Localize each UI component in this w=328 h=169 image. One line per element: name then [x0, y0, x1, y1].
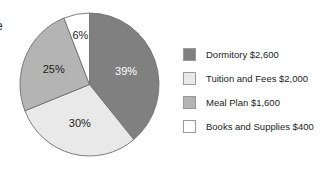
pie-slice-label: 25% — [43, 63, 65, 75]
legend-color-swatch — [183, 48, 196, 61]
legend-item-label: Meal Plan $1,600 — [206, 96, 280, 109]
pie-chart-plot-area: 39%30%25%6% — [19, 12, 160, 157]
legend-item-label: Dormitory $2,600 — [206, 48, 279, 61]
pie-slice-label: 39% — [115, 65, 137, 77]
legend-color-swatch — [183, 96, 196, 109]
legend-item-label: Books and Supplies $400 — [206, 120, 314, 133]
legend-item[interactable]: Books and Supplies $400 — [183, 114, 325, 138]
chart-legend: Dormitory $2,600Tuition and Fees $2,000M… — [183, 42, 325, 138]
pie-slice-group — [20, 13, 159, 156]
legend-item[interactable]: Meal Plan $1,600 — [183, 90, 325, 114]
pie-slice-label: 6% — [72, 29, 88, 41]
cropped-edge-text: e — [0, 19, 6, 33]
pie-chart-figure: e 39%30%25%6% Dormitory $2,600Tuition an… — [0, 0, 328, 169]
legend-item[interactable]: Tuition and Fees $2,000 — [183, 66, 325, 90]
pie-slice-label: 30% — [69, 117, 91, 129]
legend-item-label: Tuition and Fees $2,000 — [206, 72, 308, 85]
legend-item[interactable]: Dormitory $2,600 — [183, 42, 325, 66]
legend-color-swatch — [183, 72, 196, 85]
legend-color-swatch — [183, 120, 196, 133]
pie-chart-svg: 39%30%25%6% — [19, 12, 160, 157]
